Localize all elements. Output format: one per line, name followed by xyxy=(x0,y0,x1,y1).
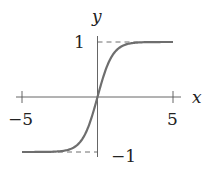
x-min-label: −5 xyxy=(8,109,33,129)
y-axis-label: y xyxy=(91,6,102,26)
tanh-chart: y x −5 5 1 −1 xyxy=(0,0,218,175)
x-axis-label: x xyxy=(192,87,202,107)
x-max-label: 5 xyxy=(167,109,178,129)
y-min-label: −1 xyxy=(111,146,136,166)
y-max-label: 1 xyxy=(74,32,85,52)
